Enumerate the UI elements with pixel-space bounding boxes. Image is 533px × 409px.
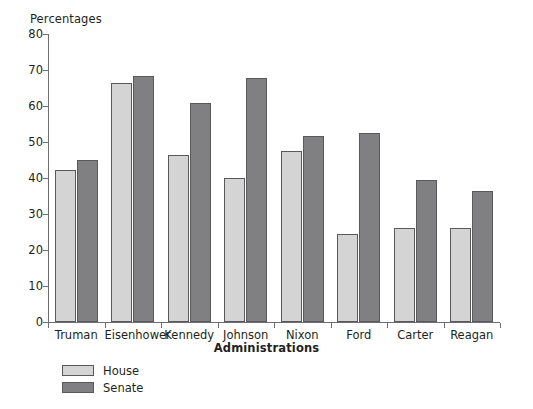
y-tick-mark <box>43 106 48 107</box>
x-tick-label-nixon: Nixon <box>274 328 331 342</box>
y-tick-mark <box>43 70 48 71</box>
bar-house-truman <box>55 170 76 322</box>
y-tick-mark <box>43 34 48 35</box>
chart-legend: HouseSenate <box>62 362 143 396</box>
x-tick-label-kennedy: Kennedy <box>161 328 218 342</box>
bar-group <box>450 34 493 322</box>
x-tick-label-carter: Carter <box>387 328 444 342</box>
bar-group <box>168 34 211 322</box>
bar-senate-carter <box>416 180 437 322</box>
bar-group <box>337 34 380 322</box>
bar-senate-ford <box>359 133 380 322</box>
bar-senate-kennedy <box>190 103 211 322</box>
x-tick-mark <box>500 323 501 328</box>
bar-group <box>224 34 267 322</box>
y-tick-label: 80 <box>28 27 43 41</box>
bar-senate-truman <box>77 160 98 322</box>
y-axis-line <box>48 34 49 322</box>
y-axis-title: Percentages <box>30 12 102 26</box>
y-tick-label: 0 <box>36 315 43 329</box>
bar-chart-figure: Percentages 01020304050607080 TrumanEise… <box>0 0 533 409</box>
y-tick-mark <box>43 250 48 251</box>
x-tick-label-truman: Truman <box>48 328 105 342</box>
bar-house-carter <box>394 228 415 322</box>
bar-house-ford <box>337 234 358 322</box>
y-tick-mark <box>43 142 48 143</box>
bar-group <box>55 34 98 322</box>
x-tick-label-ford: Ford <box>331 328 388 342</box>
legend-label: House <box>103 364 139 378</box>
y-tick-label: 20 <box>28 243 43 257</box>
bar-group <box>281 34 324 322</box>
bar-senate-eisenhower <box>133 76 154 322</box>
bar-group <box>394 34 437 322</box>
y-tick-mark <box>43 286 48 287</box>
plot-area: 01020304050607080 TrumanEisenhowerKenned… <box>48 34 500 322</box>
legend-label: Senate <box>103 381 143 395</box>
x-tick-label-eisenhower: Eisenhower <box>105 328 162 342</box>
bar-house-eisenhower <box>111 83 132 322</box>
x-axis-title: Administrations <box>0 341 533 355</box>
bar-group <box>111 34 154 322</box>
bar-house-kennedy <box>168 155 189 322</box>
bar-house-nixon <box>281 151 302 322</box>
y-tick-label: 70 <box>28 63 43 77</box>
x-tick-label-johnson: Johnson <box>218 328 275 342</box>
y-tick-label: 10 <box>28 279 43 293</box>
legend-swatch-senate <box>62 382 94 393</box>
legend-swatch-house <box>62 365 94 376</box>
bar-house-johnson <box>224 178 245 322</box>
bar-house-reagan <box>450 228 471 322</box>
y-tick-label: 60 <box>28 99 43 113</box>
legend-item-house[interactable]: House <box>62 362 143 379</box>
bar-senate-nixon <box>303 136 324 322</box>
y-tick-label: 40 <box>28 171 43 185</box>
y-tick-mark <box>43 214 48 215</box>
bar-senate-reagan <box>472 191 493 322</box>
x-tick-label-reagan: Reagan <box>444 328 501 342</box>
bar-senate-johnson <box>246 78 267 322</box>
y-tick-mark <box>43 178 48 179</box>
y-tick-label: 50 <box>28 135 43 149</box>
legend-item-senate[interactable]: Senate <box>62 379 143 396</box>
y-tick-label: 30 <box>28 207 43 221</box>
